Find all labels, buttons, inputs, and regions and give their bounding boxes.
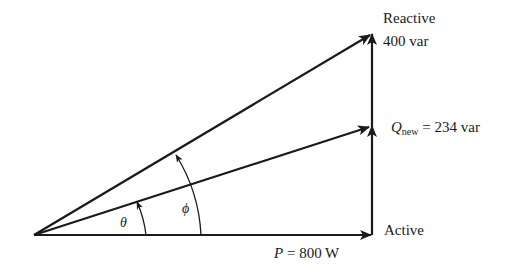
q-new-subscript: new [402,126,419,137]
phi-label: ϕ [182,202,189,216]
power-triangle-diagram: Reactive 400 var Qnew = 234 var Active P… [0,0,531,274]
phi-angle-arc [176,155,201,235]
apparent-power-new-vector [34,127,369,235]
p-label: P = 800 W [274,246,339,261]
reactive-value-label: 400 var [383,34,428,49]
apparent-power-original-vector [34,35,370,235]
theta-angle-arc [137,202,146,235]
q-new-symbol: Q [391,119,402,135]
q-new-label: Qnew = 234 var [391,120,480,137]
theta-label: θ [120,216,127,230]
active-axis-label: Active [384,223,424,238]
q-new-value: = 234 var [419,119,480,135]
reactive-axis-label: Reactive [383,11,435,26]
p-symbol: P [274,245,283,261]
vector-drawing [0,0,531,274]
p-value: = 800 W [283,245,339,261]
